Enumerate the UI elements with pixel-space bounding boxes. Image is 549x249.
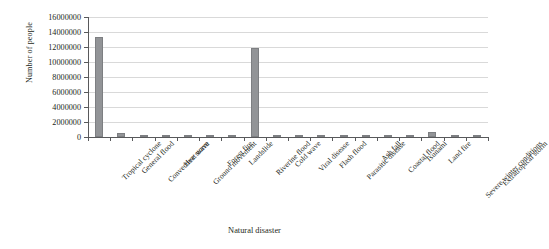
x-axis-labels: Tropical cycloneGeneral floodConvective … xyxy=(88,139,488,219)
gridline xyxy=(88,77,488,78)
y-tick-label: 14000000 xyxy=(48,28,81,37)
gridline xyxy=(88,32,488,33)
x-axis-line xyxy=(88,137,488,138)
y-tick-label: 6000000 xyxy=(52,88,81,97)
y-tick-label: 0 xyxy=(77,133,81,142)
gridline xyxy=(88,122,488,123)
gridline xyxy=(88,92,488,93)
x-tick-label: Heat wave xyxy=(181,139,210,168)
y-tick-label: 12000000 xyxy=(48,43,81,52)
bar xyxy=(251,48,259,137)
gridline xyxy=(88,62,488,63)
x-tick-label: Extratropical storm xyxy=(500,139,549,188)
y-tick-label: 8000000 xyxy=(52,73,81,82)
y-axis-title: Number of people xyxy=(25,0,34,108)
gridline xyxy=(88,17,488,18)
gridline xyxy=(88,47,488,48)
bar xyxy=(95,37,103,138)
x-tick-label: Land fire xyxy=(447,139,474,166)
y-axis-line xyxy=(88,17,89,137)
y-tick-label: 10000000 xyxy=(48,58,81,67)
x-axis-title: Natural disaster xyxy=(0,226,509,235)
gridline xyxy=(88,107,488,108)
x-tick-mark xyxy=(488,137,489,141)
y-tick-label: 2000000 xyxy=(52,118,81,127)
y-tick-label: 16000000 xyxy=(48,13,81,22)
y-tick-label: 4000000 xyxy=(52,103,81,112)
plot-area: 0200000040000006000000800000010000000120… xyxy=(88,17,488,137)
